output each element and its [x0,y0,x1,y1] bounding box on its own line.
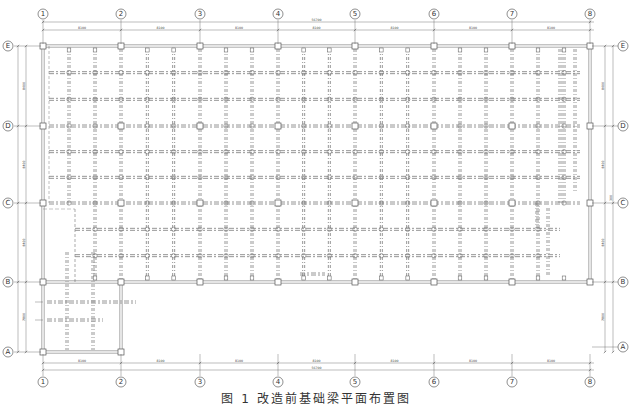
dim-span-bottom-text: 8100 [235,359,243,363]
column [509,200,515,206]
column [275,123,281,129]
beam-junction [224,124,228,128]
dim-span-top-text: 8100 [156,26,164,30]
beam-junction [562,97,566,101]
beam-junction [224,253,228,257]
beam-junction [93,70,97,74]
beam-junction [93,149,97,153]
column [118,200,124,206]
column-axis-bubble-bottom-label: 5 [353,378,357,386]
beam-junction [353,149,357,153]
dim-span-top-text: 8100 [390,26,398,30]
beam-junction [353,253,357,257]
beam-junction [171,175,175,179]
beam-junction [458,175,462,179]
column [275,200,281,206]
column-axis-bubble-bottom-label: 3 [198,378,202,386]
dim-right-text: 7800 [601,313,605,321]
beam-junction [250,201,254,205]
beam-junction [171,149,175,153]
beam-junction [119,70,123,74]
beam-junction [327,149,331,153]
column-axis-bubble-bottom-label: 8 [588,378,592,386]
column-axis-bubble-bottom-label: 6 [432,378,437,386]
beam-junction [562,201,566,205]
dim-right-text: 8400 [601,160,605,168]
pile-cap [458,48,462,52]
beam-junction [224,201,228,205]
column [118,279,124,285]
column-axis-bubble-bottom-label: 2 [119,378,123,386]
beam-junction [405,253,409,257]
beam-junction [536,70,540,74]
column [197,200,203,206]
pile-cap [484,48,488,52]
beam-junction [276,227,280,231]
beam-junction [198,227,202,231]
pile-cap [484,276,488,280]
beam-junction [432,149,436,153]
beam-junction [250,70,254,74]
beam-junction [405,124,409,128]
column-axis-bubble-top-label: 5 [353,10,357,18]
beam-junction [458,70,462,74]
axis-bubbles: 1122334455667788EEDDCCBBAA [3,9,628,387]
beam-junction [93,201,97,205]
pile-cap [380,48,384,52]
beam-junction [536,175,540,179]
pile-cap [172,48,176,52]
row-axis-bubble-right-label: C [621,199,626,207]
row-axis-bubble-right-label: D [620,122,625,130]
column [275,279,281,285]
pile-cap [146,276,150,280]
pile-cap [458,276,462,280]
beam-junction [276,175,280,179]
column-axis-bubble-bottom-label: 1 [41,378,45,386]
pile-cap [406,48,410,52]
beam-junction [327,70,331,74]
column [352,279,358,285]
beam-junction [301,175,305,179]
beam-junction [379,149,383,153]
beam-junction [250,97,254,101]
beam-junction [484,175,488,179]
column [352,200,358,206]
beam-junction [562,149,566,153]
beam-junction [67,175,71,179]
beam-junction [510,97,514,101]
column [431,279,437,285]
row-axis-bubble-left-label: B [6,278,11,286]
beam-junction [119,227,123,231]
pile-cap [562,276,566,280]
beam-junction [224,70,228,74]
beam-junction [458,253,462,257]
beam-junction [301,97,305,101]
row-axis-bubble-right-label: A [621,343,626,351]
beam-junction [484,97,488,101]
pile-cap [536,48,540,52]
beam-junction [405,227,409,231]
row-axis-bubble-left-label: A [6,348,11,356]
column [197,123,203,129]
dim-right-text: 8400 [601,82,605,90]
beam-junction [67,70,71,74]
building-outline [42,45,591,353]
column-axis-bubble-top-label: 1 [41,10,45,18]
beam-junction [458,201,462,205]
pile-cap [93,48,97,52]
beam-junction [301,149,305,153]
beam-junction [353,227,357,231]
dim-span-bottom-text: 8100 [156,359,164,363]
figure-caption: 图 1 改造前基础梁平面布置图 [0,389,632,406]
column [509,123,515,129]
beam-junction [145,124,149,128]
beam-junction [250,124,254,128]
pile-cap [93,276,97,280]
beam-junction [327,175,331,179]
beam-junction [432,175,436,179]
beam-junction [536,97,540,101]
beam-junction [405,175,409,179]
dim-left-text: 8400 [22,238,26,246]
beam-junction [198,175,202,179]
